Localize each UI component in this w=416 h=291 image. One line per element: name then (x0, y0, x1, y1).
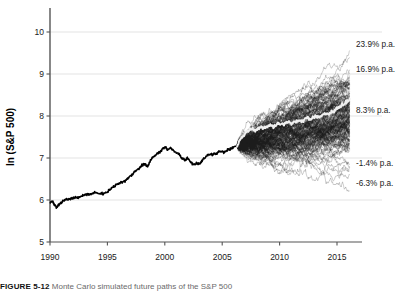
x-axis-tick-labels: 199019952000200520102015 (41, 252, 347, 262)
y-tick-label: 8 (39, 111, 44, 121)
historical-path (50, 145, 237, 208)
annotation-lower-extreme: -6.3% p.a. (356, 179, 393, 188)
y-tick-label: 10 (35, 27, 45, 37)
figure-container: 5678910 199019952000200520102015 23.9% p… (0, 0, 416, 291)
y-axis-title: ln (S&P 500) (5, 108, 16, 166)
y-tick-label: 9 (39, 69, 44, 79)
y-tick-label: 5 (39, 237, 44, 247)
y-tick-label: 7 (39, 153, 44, 163)
x-tick-label: 1995 (98, 252, 117, 262)
x-tick-label: 2000 (155, 252, 174, 262)
y-axis-tick-labels: 5678910 (35, 27, 45, 247)
x-tick-label: 2005 (213, 252, 232, 262)
y-tick-label: 6 (39, 195, 44, 205)
x-tick-label: 2015 (328, 252, 347, 262)
historical-series-line (50, 145, 237, 208)
y-axis-title-text: ln (S&P 500) (5, 108, 16, 166)
figure-caption: FIGURE 5-12 Monte Carlo simulated future… (0, 282, 416, 291)
annotation-labels: 23.9% p.a.16.9% p.a.8.3% p.a.-1.4% p.a.-… (356, 40, 395, 188)
annotation-lower-band: -1.4% p.a. (356, 159, 393, 168)
x-tick-label: 1990 (41, 252, 60, 262)
figure-caption-label: FIGURE 5-12 (0, 282, 50, 291)
x-axis (50, 242, 362, 246)
annotation-median-band: 8.3% p.a. (356, 106, 391, 115)
monte-carlo-chart: 5678910 199019952000200520102015 23.9% p… (0, 0, 416, 291)
annotation-upper-band: 16.9% p.a. (356, 65, 395, 74)
y-axis (47, 8, 51, 242)
figure-caption-text: Monte Carlo simulated future paths of th… (52, 282, 232, 291)
x-tick-label: 2010 (270, 252, 289, 262)
annotation-upper-extreme: 23.9% p.a. (356, 40, 395, 49)
